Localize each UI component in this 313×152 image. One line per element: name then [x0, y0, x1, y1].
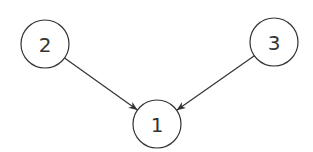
- node-label: 3: [268, 31, 281, 55]
- edge-2-to-1: [65, 58, 138, 110]
- nodes: 123: [21, 18, 298, 148]
- node-label: 2: [39, 33, 52, 57]
- edge-3-to-1: [177, 56, 255, 110]
- node-2: 2: [21, 20, 69, 68]
- node-3: 3: [250, 18, 298, 66]
- node-1: 1: [133, 100, 181, 148]
- node-label: 1: [151, 113, 164, 137]
- graph-canvas: 123: [0, 0, 313, 152]
